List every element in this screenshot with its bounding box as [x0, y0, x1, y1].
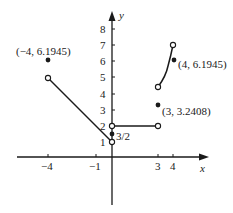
filled-point — [46, 58, 51, 63]
y-tick-label: 6 — [100, 55, 106, 67]
x-tick-label: −1 — [89, 160, 101, 172]
x-tick-label: −4 — [41, 160, 53, 172]
open-point — [109, 123, 114, 128]
x-axis-arrow-icon — [199, 154, 209, 161]
y-tick-label: 1 — [100, 136, 106, 148]
point-label: 3/2 — [116, 130, 130, 142]
x-axis-label: x — [199, 162, 205, 174]
filled-point — [110, 132, 115, 137]
y-tick-label: 4 — [100, 88, 106, 100]
piecewise-function-plot: x y −4 −1 3 4 8 7 6 5 4 3 2 1 — [0, 0, 233, 213]
open-point — [155, 84, 160, 89]
y-axis-label: y — [118, 9, 124, 21]
open-endpoints — [45, 42, 175, 144]
y-tick-label: 7 — [100, 39, 106, 51]
point-label: (−4, 6.1945) — [16, 45, 71, 58]
open-point — [45, 75, 50, 80]
open-point — [109, 139, 114, 144]
filled-point — [172, 58, 177, 63]
open-point — [155, 123, 160, 128]
point-label: (4, 6.1945) — [178, 58, 227, 71]
y-axis-arrow-icon — [109, 11, 116, 21]
open-point — [170, 42, 175, 47]
x-tick-label: 3 — [155, 160, 161, 172]
point-label: (3, 3.2408) — [162, 105, 211, 118]
y-tick-label: 8 — [100, 23, 106, 35]
curve-right — [158, 45, 173, 87]
y-tick-label: 3 — [100, 104, 106, 116]
y-tick-label: 5 — [100, 71, 106, 83]
x-tick-label: 4 — [170, 160, 176, 172]
filled-point — [156, 103, 161, 108]
